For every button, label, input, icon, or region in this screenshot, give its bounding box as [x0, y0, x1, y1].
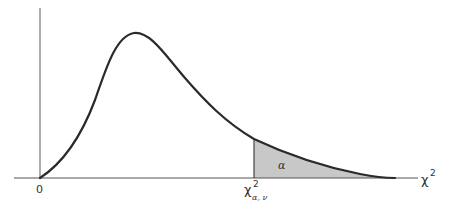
shaded-tail-area: [254, 139, 395, 178]
critical-label-base: χ: [244, 182, 252, 197]
diagram-canvas: 0 α χ 2 α, ν χ 2: [0, 0, 450, 207]
x-axis-label-sup: 2: [430, 168, 436, 178]
critical-label-sub: α, ν: [252, 193, 267, 202]
critical-label-sup: 2: [253, 179, 259, 189]
density-curve: [40, 33, 395, 178]
x-axis-label-base: χ: [421, 172, 429, 187]
chi-square-diagram: 0 α χ 2 α, ν χ 2: [0, 0, 450, 207]
origin-label: 0: [36, 183, 43, 196]
x-axis-label: χ 2: [421, 168, 436, 187]
alpha-area-label: α: [278, 159, 286, 172]
critical-value-label: χ 2 α, ν: [244, 179, 267, 202]
